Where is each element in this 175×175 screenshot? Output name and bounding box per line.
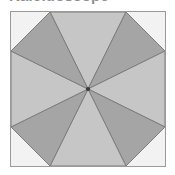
kaleidoscope-frame bbox=[10, 11, 166, 167]
figure-caption-strip bbox=[10, 168, 166, 175]
kaleidoscope-figure: Kaleidoscope bbox=[0, 0, 175, 175]
kaleidoscope-graphic bbox=[11, 12, 165, 166]
figure-title: Kaleidoscope bbox=[9, 0, 169, 4]
center-dot bbox=[86, 87, 90, 91]
